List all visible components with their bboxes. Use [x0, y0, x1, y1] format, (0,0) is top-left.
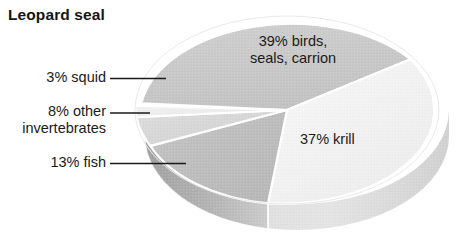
slice-label-other-invertebrates: 8% other invertebrates	[0, 103, 106, 137]
slice-label-squid: 3% squid	[0, 69, 106, 86]
slice-label-krill: 37% krill	[300, 131, 410, 148]
slice-label-birds: 39% birds, seals, carrion	[218, 33, 368, 67]
slice-label-fish: 13% fish	[0, 154, 106, 171]
pie-chart-figure: Leopard seal	[0, 0, 459, 249]
